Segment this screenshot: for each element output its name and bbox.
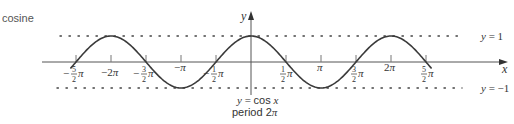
caption-period: period 2π [232,106,278,118]
svg-text:−: − [63,67,69,79]
ref-label-yneg1: y = −1 [480,82,509,94]
svg-text:π: π [78,67,84,79]
svg-text:2: 2 [72,75,76,84]
caption-function: y = cos x [236,94,278,106]
svg-text:2: 2 [352,75,356,84]
tick-label-pi: π [317,61,323,73]
y-axis-arrow-icon [248,11,254,20]
svg-text:1: 1 [281,65,285,74]
tick-label-neg-pi: −π [174,61,186,73]
svg-text:π: π [428,67,434,79]
tick-label-2-pi: 2π [384,61,396,73]
tick-label-3-2-pi: 3 2 π [351,65,364,84]
tick-label-neg-3-2-pi: − 3 2 π [133,65,154,84]
svg-text:2π: 2π [384,61,396,73]
svg-text:−: − [133,67,139,79]
y-axis-label: y [240,9,247,23]
svg-text:2: 2 [142,75,146,84]
tick-label-neg-1-2-pi: − 1 2 π [203,65,224,84]
cosine-chart: − 5 2 π −2π − 3 2 π −π − 1 2 π 1 [0,0,514,124]
svg-text:π: π [287,67,293,79]
svg-text:3: 3 [142,65,146,74]
svg-text:π: π [148,67,154,79]
svg-text:3: 3 [352,65,356,74]
tick-label-neg-5-2-pi: − 5 2 π [63,65,84,84]
svg-text:−2π: −2π [101,66,119,78]
x-axis-label: x [501,62,508,76]
svg-text:5: 5 [422,65,426,74]
tick-label-5-2-pi: 5 2 π [421,65,434,84]
svg-text:π: π [218,67,224,79]
svg-text:1: 1 [212,65,216,74]
tick-label-1-2-pi: 1 2 π [280,65,293,84]
svg-text:2: 2 [422,75,426,84]
svg-text:−: − [203,67,209,79]
ref-label-y1: y = 1 [480,30,503,42]
svg-text:5: 5 [72,65,76,74]
tick-label-neg-2-pi: −2π [101,66,119,78]
svg-text:−π: −π [174,61,186,73]
svg-text:2: 2 [281,75,285,84]
svg-text:2: 2 [212,75,216,84]
svg-text:π: π [317,61,323,73]
svg-text:π: π [358,67,364,79]
